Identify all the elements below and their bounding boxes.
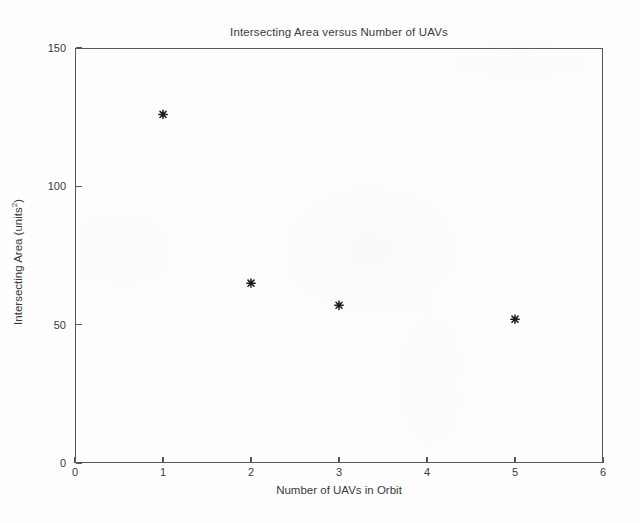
x-axis-tick-label: 6 bbox=[600, 466, 606, 478]
x-axis-tick-label: 4 bbox=[424, 466, 430, 478]
data-point-marker bbox=[335, 301, 343, 309]
figure-canvas: Intersecting Area versus Number of UAVs … bbox=[0, 0, 640, 523]
data-markers-layer bbox=[75, 48, 603, 463]
y-axis-tick bbox=[76, 47, 82, 48]
y-axis-tick-label: 0 bbox=[60, 457, 66, 469]
y-axis-tick bbox=[76, 186, 82, 187]
y-axis-tick-label: 150 bbox=[48, 42, 66, 54]
x-axis-tick-label: 0 bbox=[72, 466, 78, 478]
data-point-marker bbox=[247, 279, 255, 287]
chart-title: Intersecting Area versus Number of UAVs bbox=[75, 26, 603, 38]
plot-area bbox=[75, 48, 603, 463]
y-axis-label-text: Intersecting Area (units bbox=[12, 207, 24, 325]
y-axis-label-exponent: 2 bbox=[10, 203, 19, 207]
x-axis-tick-label: 2 bbox=[248, 466, 254, 478]
y-axis-label-tail: ) bbox=[12, 199, 24, 203]
x-axis-tick bbox=[250, 457, 251, 463]
x-axis-tick bbox=[162, 457, 163, 463]
y-axis-tick bbox=[76, 324, 82, 325]
y-axis-label: Intersecting Area (units2) bbox=[10, 152, 24, 372]
data-point-marker bbox=[511, 315, 519, 323]
x-axis-tick bbox=[338, 457, 339, 463]
x-axis-tick-label: 1 bbox=[160, 466, 166, 478]
data-point-marker bbox=[159, 110, 167, 118]
x-axis-tick bbox=[514, 457, 515, 463]
x-axis-label: Number of UAVs in Orbit bbox=[75, 484, 603, 496]
y-axis-tick-label: 100 bbox=[48, 180, 66, 192]
y-axis-tick-label: 50 bbox=[54, 319, 66, 331]
x-axis-tick-label: 3 bbox=[336, 466, 342, 478]
y-axis-tick bbox=[76, 462, 82, 463]
x-axis-tick bbox=[602, 457, 603, 463]
x-axis-tick-label: 5 bbox=[512, 466, 518, 478]
x-axis-tick bbox=[426, 457, 427, 463]
